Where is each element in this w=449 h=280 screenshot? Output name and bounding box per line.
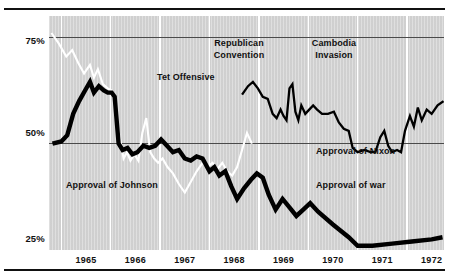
annotation-tet-offensive: Tet Offensive (157, 72, 215, 84)
annotation-cambodia-invasion: Cambodia Invasion (296, 38, 372, 61)
y-tick-label-50: 50% (25, 127, 45, 138)
y-axis-labels: 75% 50% 25% (0, 0, 45, 280)
annotation-cambodia-invasion-line2: Invasion (296, 50, 372, 62)
x-tick-label-1972: 1972 (412, 255, 449, 265)
x-tick-label-1969: 1969 (264, 255, 304, 265)
series-line-approval-of-nixon (242, 82, 443, 152)
x-tick-label-1970: 1970 (313, 255, 353, 265)
y-tick-label-75: 75% (25, 35, 45, 46)
x-tick-label-1967: 1967 (165, 255, 205, 265)
annotation-republican-convention-line1: Republican (196, 38, 282, 50)
y-tick-label-25: 25% (25, 233, 45, 244)
x-tick-label-1965: 1965 (66, 255, 106, 265)
series-label-approval-of-war-text: Approval of war (316, 180, 386, 192)
x-tick-label-1966: 1966 (115, 255, 155, 265)
annotation-cambodia-invasion-line1: Cambodia (296, 38, 372, 50)
top-divider-rule (4, 8, 445, 10)
series-label-approval-of-nixon: Approval of Nixon (316, 146, 395, 158)
annotation-tet-offensive-line1: Tet Offensive (157, 72, 215, 84)
bottom-divider-rule (4, 269, 445, 271)
series-label-approval-of-nixon-text: Approval of Nixon (316, 146, 395, 158)
chart-figure: 75% 50% 25% Republican Convention Cambod… (0, 0, 449, 280)
x-tick-label-1971: 1971 (362, 255, 402, 265)
series-label-approval-of-johnson: Approval of Johnson (66, 180, 158, 192)
annotation-republican-convention: Republican Convention (196, 38, 282, 61)
series-label-approval-of-war: Approval of war (316, 180, 386, 192)
series-label-approval-of-johnson-text: Approval of Johnson (66, 180, 158, 192)
x-tick-label-1968: 1968 (214, 255, 254, 265)
annotation-republican-convention-line2: Convention (196, 50, 282, 62)
